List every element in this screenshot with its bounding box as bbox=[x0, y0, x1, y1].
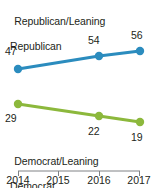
value-label-democrat-2017: 19 bbox=[131, 132, 143, 143]
series-caption-democrat-line1: Democrat/Leaning bbox=[14, 155, 98, 167]
data-point-republican-2014 bbox=[14, 65, 22, 73]
value-label-republican-2017: 56 bbox=[131, 30, 143, 41]
value-label-democrat-2016: 22 bbox=[88, 126, 100, 137]
x-tick-label-2017: 2017 bbox=[127, 174, 150, 186]
data-point-republican-2017 bbox=[136, 47, 144, 55]
x-tick-label-2016: 2016 bbox=[87, 174, 110, 186]
data-point-democrat-2016 bbox=[95, 112, 103, 120]
x-tick-label-2015: 2015 bbox=[46, 174, 69, 186]
value-label-republican-2016: 54 bbox=[88, 35, 100, 46]
x-axis: 2014 2015 2016 2017 bbox=[0, 166, 157, 188]
value-label-republican-2014: 47 bbox=[5, 46, 17, 57]
data-point-republican-2016 bbox=[95, 52, 103, 60]
data-point-democrat-2017 bbox=[136, 118, 144, 126]
data-point-democrat-2014 bbox=[14, 100, 22, 108]
x-tick-label-2014: 2014 bbox=[6, 174, 29, 186]
line-chart: Republican/Leaning Republican 47 54 56 2… bbox=[0, 0, 157, 188]
line-republican bbox=[18, 51, 140, 69]
value-label-democrat-2014: 29 bbox=[5, 113, 17, 124]
line-democrat bbox=[18, 104, 140, 122]
